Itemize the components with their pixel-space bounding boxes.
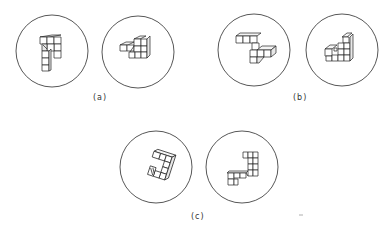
view-b-left [218, 14, 290, 86]
view-c-left [120, 131, 192, 203]
mental-rotation-figure: (a) (b) (c) [0, 0, 389, 236]
cube-figure [147, 148, 176, 180]
view-a-right [102, 16, 174, 88]
view-circle [206, 131, 278, 203]
view-c-right [206, 131, 278, 203]
view-a-left [16, 15, 88, 87]
view-b-right [306, 14, 378, 86]
cube-figure [120, 36, 150, 58]
cube-figure [325, 33, 353, 61]
cube-figure [40, 35, 61, 71]
panel-label-c: (c) [191, 212, 205, 221]
cube-figure [227, 152, 258, 185]
panel-label-b: (b) [293, 93, 307, 102]
figure-canvas [0, 0, 389, 236]
view-circle [120, 131, 192, 203]
panel-label-a: (a) [93, 93, 107, 102]
cube-figure [236, 33, 276, 63]
